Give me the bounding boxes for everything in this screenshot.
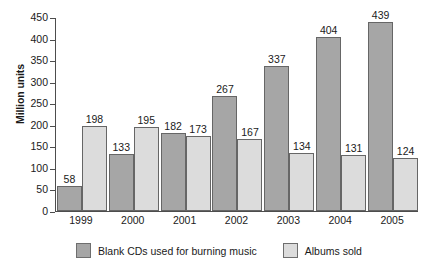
bar-group-2004: 404131	[315, 18, 367, 211]
y-tick-mark	[50, 126, 55, 127]
bar-value-label: 131	[345, 142, 363, 154]
x-category-label-2005: 2005	[366, 214, 418, 226]
y-tick-mark	[50, 83, 55, 84]
bar-value-label: 124	[397, 145, 415, 157]
legend-label: Blank CDs used for burning music	[98, 245, 257, 257]
y-tick-mark	[50, 104, 55, 105]
bar-value-label: 182	[164, 120, 182, 132]
bar-chart: Million units 05010015020025030035040045…	[0, 0, 438, 272]
y-tick-label: 100	[30, 162, 48, 174]
y-tick-label: 450	[30, 11, 48, 23]
x-axis-category-labels: 1999200020012002200320042005	[55, 214, 418, 232]
bar-value-label: 167	[241, 126, 259, 138]
bar-2002-series-1: 167	[237, 139, 262, 211]
bar-group-2005: 439124	[367, 18, 419, 211]
y-tick-label: 350	[30, 54, 48, 66]
y-tick-label: 0	[42, 205, 48, 217]
bar-value-label: 58	[64, 173, 76, 185]
bar-group-2000: 133195	[108, 18, 160, 211]
bar-group-2003: 337134	[263, 18, 315, 211]
bar-2004-series-1: 131	[341, 155, 366, 211]
bar-group-2001: 182173	[160, 18, 212, 211]
bar-value-label: 439	[372, 9, 390, 21]
bar-2004-series-0: 404	[316, 37, 341, 211]
x-category-label-2004: 2004	[314, 214, 366, 226]
y-tick-mark	[50, 190, 55, 191]
y-tick-mark	[50, 212, 55, 213]
bar-value-label: 173	[189, 123, 207, 135]
x-category-label-2000: 2000	[107, 214, 159, 226]
x-category-label-2003: 2003	[262, 214, 314, 226]
bar-group-2002: 267167	[212, 18, 264, 211]
y-tick-label: 200	[30, 119, 48, 131]
bar-2001-series-1: 173	[186, 136, 211, 211]
x-axis-line	[55, 211, 418, 212]
y-tick-mark	[50, 18, 55, 19]
bar-value-label: 337	[268, 53, 286, 65]
bar-value-label: 198	[86, 113, 104, 125]
legend-item-1: Albums sold	[283, 243, 362, 258]
x-category-label-2002: 2002	[211, 214, 263, 226]
bar-2005-series-1: 124	[393, 158, 418, 211]
y-tick-mark	[50, 61, 55, 62]
legend-label: Albums sold	[305, 245, 362, 257]
bar-value-label: 404	[320, 24, 338, 36]
bar-2000-series-0: 133	[109, 154, 134, 211]
y-tick-label: 150	[30, 140, 48, 152]
bar-2003-series-0: 337	[264, 66, 289, 211]
x-category-label-2001: 2001	[159, 214, 211, 226]
bar-value-label: 195	[138, 114, 156, 126]
y-tick-label: 400	[30, 33, 48, 45]
y-tick-label: 250	[30, 97, 48, 109]
bar-value-label: 267	[216, 83, 234, 95]
bar-group-1999: 58198	[56, 18, 108, 211]
y-tick-mark	[50, 169, 55, 170]
chart-legend: Blank CDs used for burning musicAlbums s…	[0, 243, 438, 258]
y-tick-label: 50	[36, 183, 48, 195]
bar-1999-series-1: 198	[82, 126, 107, 211]
plot-area: 050100150200250300350400450 581981331951…	[55, 18, 418, 212]
bar-1999-series-0: 58	[57, 186, 82, 211]
legend-swatch-icon	[283, 243, 298, 258]
legend-item-0: Blank CDs used for burning music	[76, 243, 257, 258]
y-tick-label: 300	[30, 76, 48, 88]
y-tick-mark	[50, 40, 55, 41]
bar-2003-series-1: 134	[289, 153, 314, 211]
bars-layer: 5819813319518217326716733713440413143912…	[56, 18, 418, 211]
bar-2005-series-0: 439	[368, 22, 393, 211]
bar-2000-series-1: 195	[134, 127, 159, 211]
y-axis-title: Million units	[14, 44, 26, 144]
bar-2002-series-0: 267	[212, 96, 237, 211]
bar-value-label: 134	[293, 140, 311, 152]
y-tick-mark	[50, 147, 55, 148]
bar-value-label: 133	[113, 141, 131, 153]
bar-2001-series-0: 182	[161, 133, 186, 211]
legend-swatch-icon	[76, 243, 91, 258]
x-category-label-1999: 1999	[55, 214, 107, 226]
